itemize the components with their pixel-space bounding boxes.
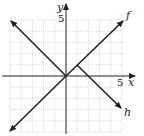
- curve-h: [77, 65, 121, 108]
- graph-figure: y 5 5 x f h: [0, 0, 144, 136]
- x-tick-label: 5: [117, 77, 123, 88]
- x-axis-label: x: [128, 76, 135, 89]
- curve-f-label: f: [125, 9, 132, 22]
- y-tick-label: 5: [58, 13, 64, 24]
- curve-left-branch: [11, 21, 66, 76]
- curve-h-label: h: [124, 106, 131, 119]
- coordinate-plane: y 5 5 x f h: [0, 0, 144, 136]
